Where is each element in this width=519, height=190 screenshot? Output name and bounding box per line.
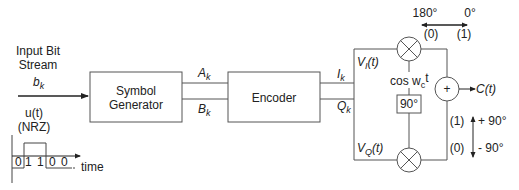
nrz-label-line1: u(t): [25, 106, 43, 120]
phase-180-bit: (0): [424, 27, 439, 41]
nrz-waveform: [12, 135, 80, 183]
carrier-label: cos wct: [390, 71, 429, 90]
bk-label: Bk: [198, 102, 211, 118]
summer-symbol: +: [443, 82, 450, 96]
qk-label: Qk: [337, 99, 351, 115]
phase-up-bit: (1): [450, 114, 465, 128]
qpsk-modulator-diagram: Input Bit Stream bk u(t) (NRZ) 0 1 1 0 0…: [0, 0, 519, 190]
input-symbol: bk: [33, 75, 45, 91]
mixer-i-icon: [397, 37, 421, 61]
phase-0-bit: (1): [457, 27, 472, 41]
nrz-label-line2: (NRZ): [18, 120, 51, 134]
phase-shift-label: 90°: [400, 97, 418, 111]
mixer-q-icon: [397, 148, 421, 172]
nrz-bit-0: 0: [15, 155, 22, 169]
vi-label: VI(t): [357, 55, 379, 71]
phase-minus90-label: - 90°: [478, 141, 504, 155]
phase-0-label: 0°: [464, 6, 476, 20]
nrz-time-label: time: [81, 160, 104, 174]
phase-180-label: 180°: [413, 6, 438, 20]
symbol-generator-line1: Symbol: [116, 84, 156, 98]
nrz-bit-3: 0: [49, 155, 56, 169]
phase-plus90-label: + 90°: [478, 114, 507, 128]
nrz-bit-4: 0: [61, 155, 68, 169]
input-label-line2: Stream: [19, 58, 58, 72]
symbol-generator-line2: Generator: [109, 98, 163, 112]
ak-label: Ak: [197, 66, 211, 82]
ik-label: Ik: [337, 67, 345, 83]
vq-label: VQ(t): [357, 141, 383, 157]
nrz-bit-2: 1: [37, 155, 44, 169]
encoder-label: Encoder: [252, 91, 297, 105]
nrz-bit-1: 1: [25, 155, 32, 169]
phase-down-bit: (0): [450, 141, 465, 155]
output-label: C(t): [476, 82, 496, 96]
input-label-line1: Input Bit: [16, 44, 61, 58]
